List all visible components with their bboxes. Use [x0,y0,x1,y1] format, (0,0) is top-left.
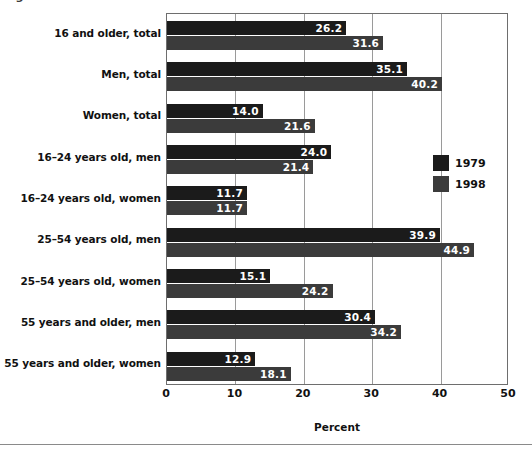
bar-1979: 11.7 [167,186,247,200]
x-tick-label: 0 [162,387,170,400]
bar-row: 30.434.2 [167,303,507,344]
category-label: Men, total [0,68,161,80]
bar-1998: 24.2 [167,284,333,298]
bar-1979: 14.0 [167,104,263,118]
category-label: Women, total [0,109,161,121]
bar-1998: 18.1 [167,367,291,381]
x-axis-ticks: 01020304050 [166,387,508,403]
bar-1979: 35.1 [167,62,407,76]
bar-1998: 31.6 [167,36,383,50]
bar-1998: 21.4 [167,160,313,174]
bar-1998: 34.2 [167,325,401,339]
bar-chart-figure: 26.231.635.140.214.021.624.021.411.711.7… [0,0,532,453]
bar-1979: 26.2 [167,21,346,35]
category-label: 55 years and older, women [0,357,161,369]
x-tick-label: 30 [364,387,379,400]
bar-1979: 39.9 [167,228,440,242]
bar-1979: 30.4 [167,310,375,324]
bar-row: 39.944.9 [167,221,507,262]
x-axis-label: Percent [166,421,508,433]
x-tick-label: 40 [432,387,447,400]
category-label: 25–54 years old, men [0,233,161,245]
legend-item: 1998 [433,176,503,192]
legend-item: 1979 [433,155,503,171]
bar-row: 15.124.2 [167,262,507,303]
bar-row: 12.918.1 [167,345,507,386]
bar-row: 14.021.6 [167,97,507,138]
chart-legend: 19791998 [433,155,503,197]
bar-1979: 12.9 [167,352,255,366]
category-label: 25–54 years old, women [0,275,161,287]
legend-label: 1998 [455,178,486,191]
legend-swatch [433,155,449,171]
bar-1998: 44.9 [167,243,474,257]
x-tick-label: 50 [500,387,515,400]
footer-divider [0,444,532,445]
category-label: 16–24 years old, men [0,151,161,163]
category-axis-labels: 16 and older, totalMen, totalWomen, tota… [0,13,161,385]
category-label: 55 years and older, men [0,316,161,328]
bar-1998: 40.2 [167,77,442,91]
bar-row: 35.140.2 [167,55,507,96]
legend-swatch [433,176,449,192]
x-tick-label: 10 [227,387,242,400]
bar-1998: 11.7 [167,201,247,215]
bar-1979: 15.1 [167,269,270,283]
category-label: 16 and older, total [0,27,161,39]
plot-area: 26.231.635.140.214.021.624.021.411.711.7… [166,13,508,385]
legend-label: 1979 [455,157,486,170]
category-label: 16–24 years old, women [0,192,161,204]
x-tick-label: 20 [295,387,310,400]
bar-row: 26.231.6 [167,14,507,55]
bar-1979: 24.0 [167,145,331,159]
bar-rows: 26.231.635.140.214.021.624.021.411.711.7… [167,14,507,384]
bar-1998: 21.6 [167,119,315,133]
